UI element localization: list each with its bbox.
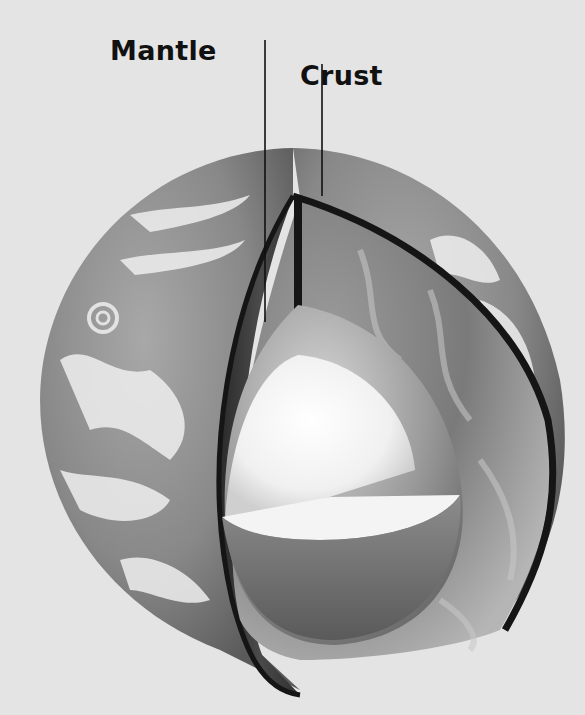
earth-layers-diagram: Mantle Crust (0, 0, 585, 715)
earth-cutaway-illustration (0, 0, 585, 715)
mantle-label: Mantle (110, 35, 217, 66)
crust-label: Crust (300, 60, 383, 91)
